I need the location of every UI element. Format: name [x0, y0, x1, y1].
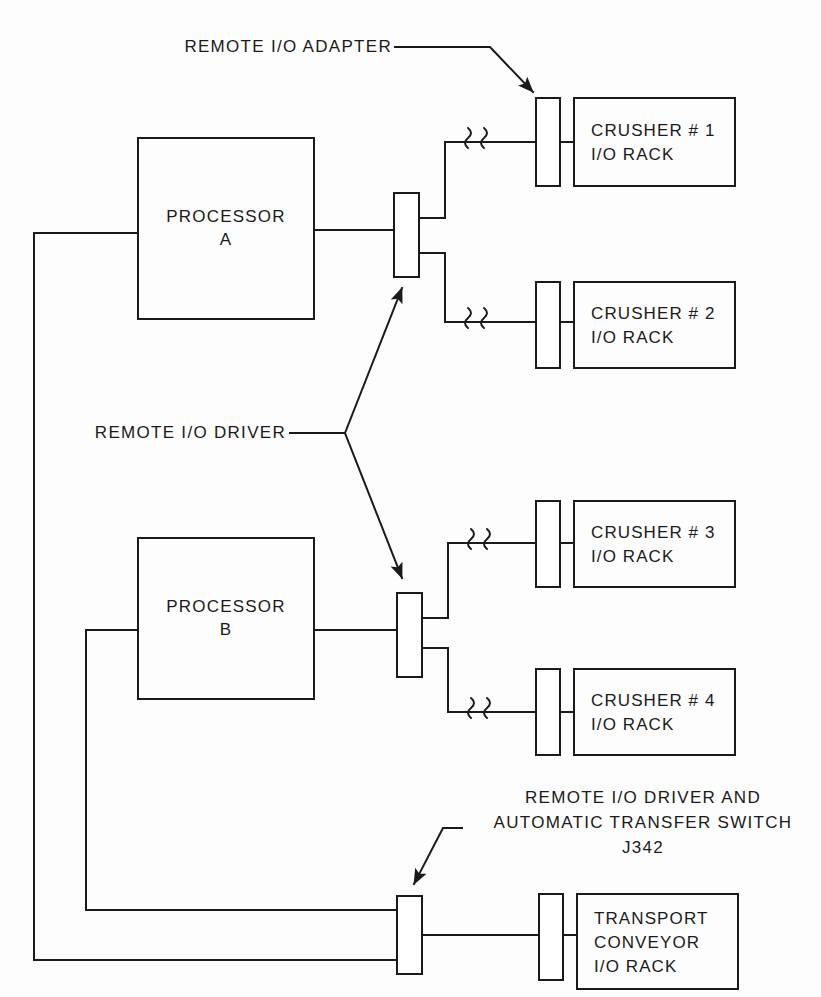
- remote-io-adapter-crusher-4-module[interactable]: [535, 668, 561, 756]
- crusher-2-rack-label: CRUSHER # 2I/O RACK: [591, 302, 716, 350]
- cable-break-crusher-2: [465, 308, 487, 328]
- crusher-2-rack-box[interactable]: CRUSHER # 2I/O RACK: [573, 281, 736, 369]
- leader-remote-io-adapter: [395, 47, 533, 92]
- remote-io-adapter-annotation: REMOTE I/O ADAPTER: [130, 34, 392, 59]
- cable-break-crusher-3: [468, 529, 490, 549]
- diagram-canvas: PROCESSORA PROCESSORB CRUSHER # 1I/O RAC…: [0, 0, 821, 997]
- remote-io-driver-a-module[interactable]: [393, 192, 420, 278]
- transport-conveyor-rack-box[interactable]: TRANSPORTCONVEYORI/O RACK: [576, 893, 739, 990]
- crusher-4-rack-label: CRUSHER # 4I/O RACK: [591, 689, 716, 737]
- wire-driver-b-to-crusher-3: [420, 543, 535, 618]
- processor-b-label: PROCESSORB: [139, 595, 313, 641]
- crusher-3-rack-label: CRUSHER # 3I/O RACK: [591, 521, 716, 569]
- crusher-4-rack-box[interactable]: CRUSHER # 4I/O RACK: [573, 668, 736, 756]
- cable-break-crusher-1: [465, 128, 487, 148]
- remote-io-adapter-transport-conveyor-module[interactable]: [538, 893, 564, 981]
- remote-io-driver-transfer-switch-module[interactable]: [396, 895, 423, 975]
- remote-io-adapter-crusher-1-module[interactable]: [535, 97, 561, 187]
- remote-io-adapter-crusher-2-module[interactable]: [535, 281, 561, 369]
- wire-driver-a-to-crusher-2: [420, 253, 535, 322]
- leader-remote-io-driver-down: [345, 433, 402, 578]
- processor-a-box[interactable]: PROCESSORA: [137, 137, 315, 320]
- transfer-switch-annotation: REMOTE I/O DRIVER ANDAUTOMATIC TRANSFER …: [468, 785, 818, 860]
- wire-driver-a-to-crusher-1: [420, 142, 535, 218]
- processor-a-label: PROCESSORA: [139, 205, 313, 251]
- crusher-3-rack-box[interactable]: CRUSHER # 3I/O RACK: [573, 500, 736, 588]
- remote-io-driver-b-module[interactable]: [396, 592, 423, 678]
- crusher-1-rack-box[interactable]: CRUSHER # 1I/O RACK: [573, 97, 736, 187]
- cable-break-crusher-4: [468, 698, 490, 718]
- remote-io-driver-annotation: REMOTE I/O DRIVER: [50, 420, 286, 445]
- wire-driver-b-to-crusher-4: [420, 648, 535, 712]
- crusher-1-rack-label: CRUSHER # 1I/O RACK: [591, 119, 716, 167]
- remote-io-adapter-crusher-3-module[interactable]: [535, 500, 561, 588]
- processor-b-box[interactable]: PROCESSORB: [137, 537, 315, 700]
- leader-transfer-switch: [414, 828, 462, 884]
- transport-conveyor-rack-label: TRANSPORTCONVEYORI/O RACK: [594, 907, 708, 979]
- leader-remote-io-driver-up: [345, 288, 402, 433]
